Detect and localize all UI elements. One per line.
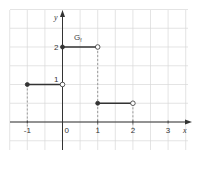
x-tick-label: 0	[65, 126, 70, 135]
x-tick-label: 1	[95, 126, 100, 135]
open-endpoint	[131, 101, 136, 106]
y-tick-label: 2	[54, 43, 59, 52]
y-tick-label: 1	[54, 75, 59, 84]
graph-label: Gf	[74, 33, 82, 43]
closed-endpoint	[96, 101, 100, 105]
x-tick-label: 2	[131, 126, 136, 135]
x-axis-label: x	[182, 126, 187, 135]
x-axis-arrow-icon	[185, 120, 192, 125]
y-axis-label: y	[53, 13, 58, 22]
x-tick-label: 3	[166, 126, 171, 135]
y-axis-arrow-icon	[60, 10, 65, 17]
axes	[10, 10, 192, 150]
x-tick-label: -1	[24, 126, 32, 135]
closed-endpoint	[25, 83, 29, 87]
step-function-plot: -1012312 x y Gf	[0, 0, 201, 180]
open-endpoint	[60, 82, 65, 87]
open-endpoint	[95, 45, 100, 50]
closed-endpoint	[61, 45, 65, 49]
